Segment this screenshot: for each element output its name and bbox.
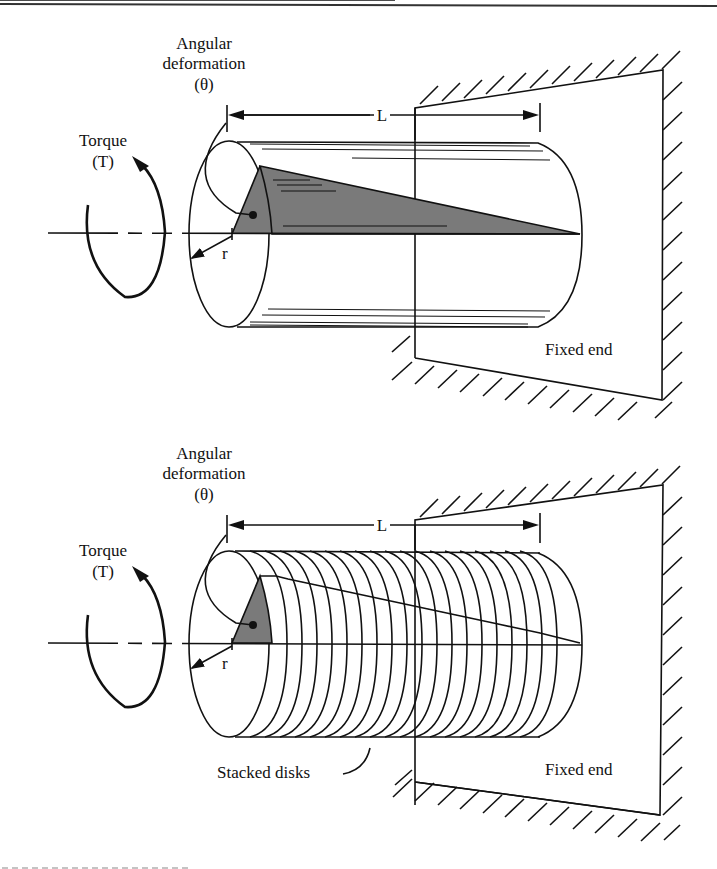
torque-symbol: (T)	[92, 152, 114, 171]
torsion-diagram: Angular deformation (θ) Torque (T) L r F…	[0, 0, 717, 869]
length-label: L	[377, 106, 387, 125]
top-panel: Angular deformation (θ) Torque (T) L r F…	[0, 0, 682, 420]
top-rule	[0, 4, 717, 6]
torque-label: Torque	[79, 131, 127, 150]
bottom-panel: Angular deformation (θ) Torque (T) L r F…	[48, 444, 682, 841]
deformation-label: deformation	[162, 54, 246, 73]
radius-label-bottom: r	[222, 654, 228, 673]
angular-label-bottom: Angular	[176, 444, 232, 463]
angular-label: Angular	[176, 34, 232, 53]
solid-shaft	[48, 103, 582, 327]
stacked-disk-shaft	[48, 513, 582, 774]
torque-symbol-bottom: (T)	[92, 562, 114, 581]
fixed-end-label-bottom: Fixed end	[545, 760, 613, 779]
theta-label-bottom: (θ)	[194, 485, 213, 504]
stacked-disks-label: Stacked disks	[217, 763, 310, 782]
fixed-end-label: Fixed end	[545, 340, 613, 359]
length-label-bottom: L	[377, 516, 387, 535]
torque-arrow	[87, 165, 165, 297]
radius-label: r	[222, 244, 228, 263]
deformation-label-bottom: deformation	[162, 464, 246, 483]
torque-label-bottom: Torque	[79, 541, 127, 560]
theta-label: (θ)	[194, 75, 213, 94]
caption-clipped	[0, 864, 200, 869]
